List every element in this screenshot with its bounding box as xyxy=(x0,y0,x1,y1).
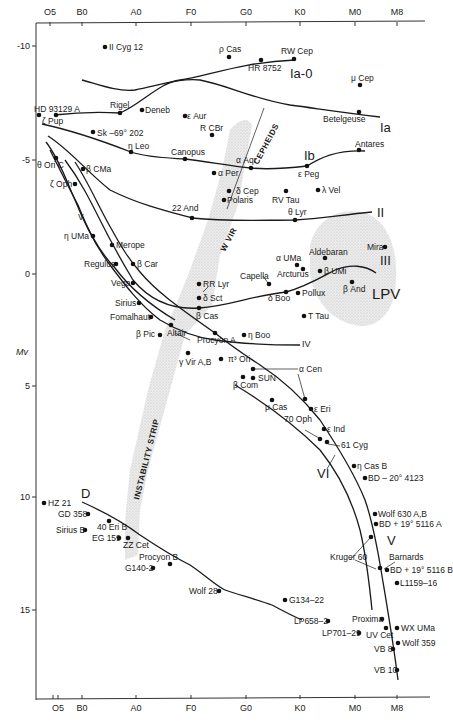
star-point xyxy=(358,83,363,88)
left-tick-group: -10-5051015 xyxy=(17,41,36,615)
star-label: Wolf 630 A,B xyxy=(378,509,427,519)
star-label: ε Peg xyxy=(298,169,320,179)
star-label: β Car xyxy=(137,259,158,269)
star-label: 40 Eri B xyxy=(97,522,128,532)
curve-d-join xyxy=(225,590,272,605)
star-point xyxy=(325,440,330,445)
star-label: α Aqr xyxy=(236,155,257,165)
star-point xyxy=(373,512,378,517)
star-label: EG 159 xyxy=(92,533,121,543)
star-label: Proxima xyxy=(352,614,383,624)
star-label: HZ 21 xyxy=(48,498,71,508)
bottom-tick-label: K0 xyxy=(294,703,305,713)
star-point xyxy=(292,57,297,62)
star-label: η UMa xyxy=(64,231,89,241)
star-point xyxy=(73,182,78,187)
star-point xyxy=(284,189,289,194)
star-label: UV Cet xyxy=(366,630,394,640)
star-label: T Tau xyxy=(308,311,329,321)
star-label: Sirius B xyxy=(56,525,86,535)
star-label: Pollux xyxy=(302,288,326,298)
star-point xyxy=(293,218,298,223)
star-label: Betelgeuse xyxy=(323,114,366,124)
bottom-tick-label: F0 xyxy=(186,703,197,713)
star-label: 22 And xyxy=(172,203,199,213)
star-label: Arcturus xyxy=(277,269,309,279)
star-label: ε Ind xyxy=(327,424,345,434)
star-point xyxy=(197,306,202,311)
star-label: β And xyxy=(343,284,366,294)
star-label: η Boo xyxy=(248,330,270,340)
star-label: R CBr xyxy=(200,123,223,133)
star-label: ε Aur xyxy=(187,111,207,121)
star-label: π³ Ori xyxy=(228,354,250,364)
class-vi-label: VI xyxy=(317,466,329,481)
star-point xyxy=(309,407,314,412)
star-label: HD 93129 A xyxy=(34,104,80,114)
star-label: δ Sct xyxy=(203,293,223,303)
bottom-tick-label: B0 xyxy=(76,703,87,713)
star-point xyxy=(318,437,323,442)
star-label: Polaris xyxy=(227,195,253,205)
star-point xyxy=(219,357,224,362)
star-label: β Pic xyxy=(136,329,156,339)
lpv-label: LPV xyxy=(372,285,400,302)
star-point xyxy=(352,464,357,469)
class-ia-label: Ia xyxy=(380,120,392,135)
star-label: LP701–29 xyxy=(322,628,361,638)
star-label: Procyon A xyxy=(197,335,236,345)
left-tick-label: 5 xyxy=(25,381,30,391)
star-point xyxy=(137,301,142,306)
curve-ia0-lower xyxy=(82,80,380,117)
star-label: Canopus xyxy=(171,147,205,157)
star-label: θ Ori C xyxy=(37,160,64,170)
star-label: II Cyg 12 xyxy=(109,42,143,52)
star-point xyxy=(42,501,47,506)
star-point xyxy=(197,296,202,301)
star-point xyxy=(305,164,310,169)
star-label: ZZ Cet xyxy=(123,540,150,550)
star-point xyxy=(91,130,96,135)
star-label: α UMa xyxy=(276,253,301,263)
star-label: L1159–16 xyxy=(400,578,437,588)
star-label: 61 Cyg xyxy=(341,440,368,450)
left-tick-label: 15 xyxy=(20,605,30,615)
star-point xyxy=(190,216,195,221)
top-tick-label: M0 xyxy=(349,7,362,17)
star-point xyxy=(303,397,308,402)
star-label: Rigel xyxy=(110,100,129,110)
star-label: β Cas xyxy=(196,311,218,321)
hr-diagram: O5B0A0F0G0K0M0M8 O5B0A0F0G0K0M0M8 -10-50… xyxy=(0,0,453,725)
star-label: RW Cep xyxy=(281,46,313,56)
hr-diagram-svg: O5B0A0F0G0K0M0M8 O5B0A0F0G0K0M0M8 -10-50… xyxy=(0,0,453,725)
star-label: α Per xyxy=(218,168,239,178)
star-label: ε Eri xyxy=(314,404,331,414)
star-point xyxy=(103,45,108,50)
star-label: δ Boo xyxy=(268,293,290,303)
curve-d xyxy=(82,502,302,620)
class-v-label: V xyxy=(387,533,396,548)
star-label: μ Cep xyxy=(351,73,374,83)
bottom-tick-label: G0 xyxy=(240,703,252,713)
star-label: Procyon B xyxy=(139,552,179,562)
star-point xyxy=(251,367,256,372)
class-d-label: D xyxy=(81,486,90,501)
top-tick-label: M8 xyxy=(391,7,404,17)
star-label: ζ Pup xyxy=(42,116,64,126)
star-label: SUN xyxy=(258,373,276,383)
star-label: β CMa xyxy=(86,164,111,174)
star-label: VB 8 xyxy=(374,644,393,654)
class-ib-label: Ib xyxy=(304,148,315,163)
star-label: Regulus xyxy=(84,259,115,269)
star-label: WX UMa xyxy=(401,623,435,633)
star-label: Vega xyxy=(111,278,131,288)
star-label: α Cen xyxy=(299,364,322,374)
star-point xyxy=(227,189,232,194)
star-point xyxy=(110,243,115,248)
top-tick-label: G0 xyxy=(240,7,252,17)
star-label: Mira xyxy=(367,242,384,252)
star-label: RV Tau xyxy=(272,195,300,205)
star-point xyxy=(296,291,301,296)
star-point xyxy=(395,581,400,586)
class-iv-label: IV xyxy=(302,339,311,349)
